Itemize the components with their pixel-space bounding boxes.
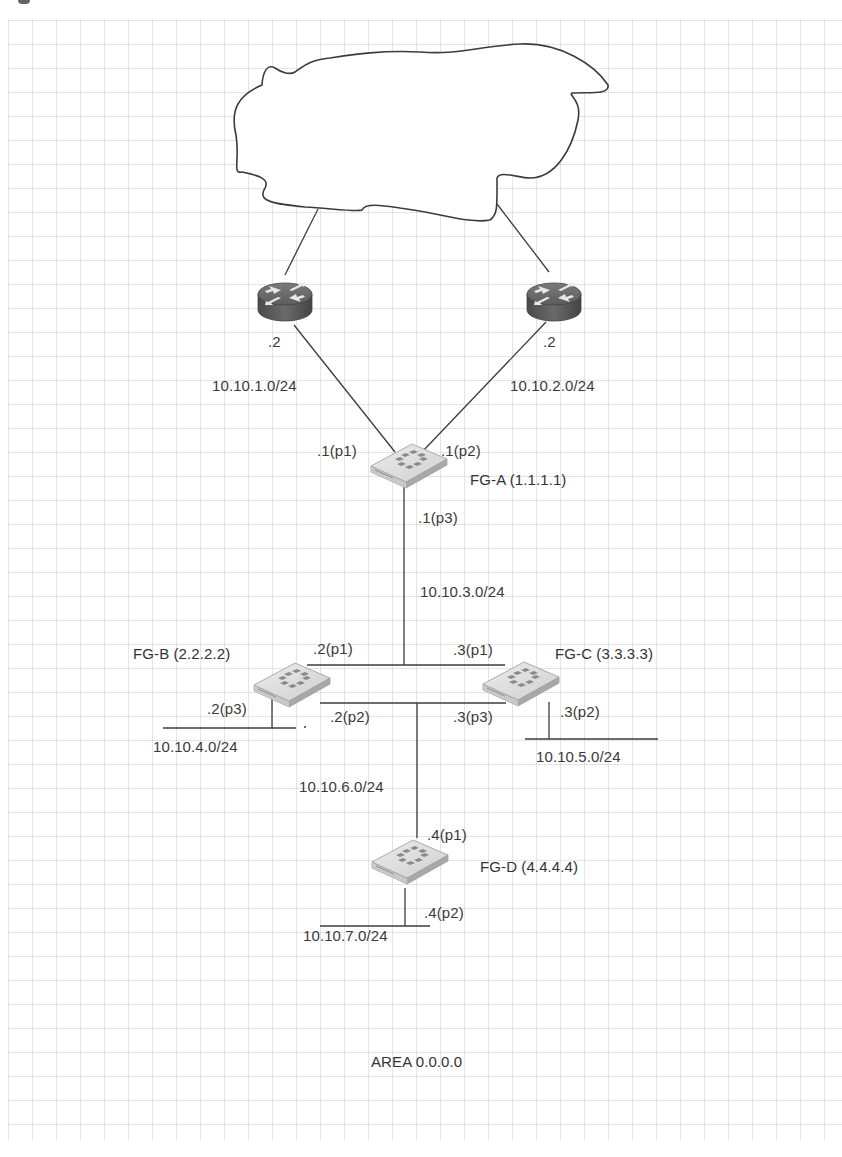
subnet-label-2: 10.10.2.0/24 [510,377,595,394]
internet-cloud [234,44,608,221]
fgb-port-p3: .2(p3) [207,700,247,717]
fga-port-p2: .1(p2) [441,442,481,459]
fgd-port-p2: .4(p2) [424,904,464,921]
fortigate-fga-icon [371,444,447,488]
subnet-label-3: 10.10.3.0/24 [420,583,505,600]
fortigate-fgd-icon [372,840,448,884]
subnet-label-4: 10.10.4.0/24 [153,738,238,755]
link-cloud-router-left [285,209,318,275]
fgc-port-p3: .3(p3) [453,708,493,725]
fga-name: FG-A (1.1.1.1) [470,471,566,488]
router-left-ip: .2 [268,333,281,350]
fortigate-fgb-icon [254,663,330,707]
fgc-port-p1: .3(p1) [453,641,493,658]
fgb-name: FG-B (2.2.2.2) [133,645,230,662]
subnet-label-5: 10.10.5.0/24 [536,748,621,765]
fortigate-fgc-icon [483,662,559,706]
fgb-port-p2: .2(p2) [330,708,370,725]
router-left-icon [258,283,312,321]
ospf-area-label: AREA 0.0.0.0 [371,1053,462,1070]
fgc-port-p2: .3(p2) [560,703,600,720]
topology-drawing [0,0,842,1157]
subnet-label-1: 10.10.1.0/24 [212,377,297,394]
fgb-port-p1: .2(p1) [313,640,353,657]
fgd-name: FG-D (4.4.4.4) [480,858,578,875]
subnet-label-6: 10.10.6.0/24 [299,778,384,795]
fga-port-p1: .1(p1) [317,442,357,459]
fga-port-p3: .1(p3) [418,509,458,526]
subnet-label-7: 10.10.7.0/24 [303,927,388,944]
fgd-port-p1: .4(p1) [427,826,467,843]
router-right-ip: .2 [543,333,556,350]
network-diagram: .2 .2 10.10.1.0/24 10.10.2.0/24 10.10.3.… [0,0,842,1157]
link-cloud-router-right [497,204,549,272]
link-router-left-fga [294,325,395,452]
router-right-icon [527,283,581,321]
fgc-name: FG-C (3.3.3.3) [555,645,653,662]
